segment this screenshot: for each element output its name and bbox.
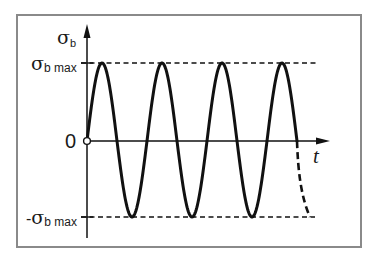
stress-time-diagram: σb σb max 0 -σb max t [0,0,371,262]
zero-label: 0 [65,130,76,152]
max-label: σb max [31,52,77,75]
diagram-canvas: σb σb max 0 -σb max t [0,0,371,262]
t-axis-label: t [313,144,320,168]
y-axis-label: σb [57,26,76,49]
min-label: -σb max [26,206,77,229]
origin-marker-icon [84,138,91,145]
y-axis-arrow-icon [84,24,91,38]
stress-curve [87,63,297,217]
stress-curve-continuation [297,141,310,217]
